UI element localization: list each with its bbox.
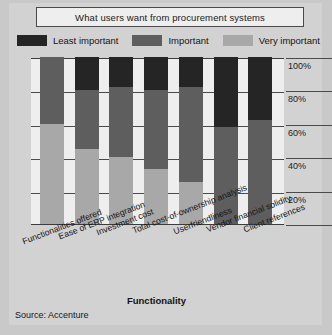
bar-segment[interactable] [248,57,272,120]
bar-segment[interactable] [109,87,133,157]
bar-column[interactable] [40,59,64,224]
x-axis-title: Functionality [9,295,304,306]
legend-label: Very important [259,35,320,46]
bar-column[interactable] [75,59,99,224]
source-note: Source: Accenture [15,310,89,320]
legend-item[interactable]: Least important [17,35,118,46]
bar-segment[interactable] [40,57,64,124]
bar-segment[interactable] [144,57,168,90]
bar-segment[interactable] [179,57,203,87]
legend-swatch-important [132,35,162,46]
y-tick-label: 40% [288,161,306,171]
legend-swatch-least-important [17,35,47,46]
legend-label: Least important [53,35,118,46]
bar-column[interactable] [144,59,168,224]
x-axis-labels: Functionalities offeredEase of ERP integ… [9,225,322,297]
y-tick-label: 60% [288,128,306,138]
chart-legend: Least importantImportantVery important [17,31,317,49]
bar-segment[interactable] [75,57,99,90]
y-axis: 100%80%60%40%20% [286,58,332,225]
y-tick-line [286,58,332,59]
chart-figure: What users want from procurement systems… [9,3,322,325]
y-tick-line [286,192,332,193]
y-tick-label: 100% [288,61,311,71]
legend-item[interactable]: Important [132,35,208,46]
bar-segment[interactable] [179,87,203,182]
bar-segment[interactable] [214,57,238,127]
y-tick-line [286,91,332,92]
chart-title: What users want from procurement systems [75,12,265,23]
chart-title-box: What users want from procurement systems [36,7,304,27]
legend-swatch-very-important [223,35,253,46]
legend-item[interactable]: Very important [223,35,320,46]
bar-segment[interactable] [40,124,64,224]
legend-label: Important [168,35,208,46]
y-tick-line [286,125,332,126]
bar-segment[interactable] [109,57,133,87]
y-tick-line [286,158,332,159]
bar-segment[interactable] [144,90,168,168]
y-tick-label: 80% [288,94,306,104]
plot-area [31,58,284,225]
bar-column[interactable] [109,59,133,224]
bar-segment[interactable] [75,90,99,148]
